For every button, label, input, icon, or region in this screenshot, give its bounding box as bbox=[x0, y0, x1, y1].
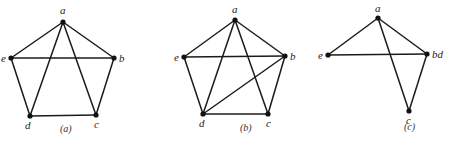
vertex-label-b: b bbox=[119, 52, 125, 64]
vertex-b bbox=[282, 53, 287, 58]
vertex-label-e: e bbox=[318, 49, 323, 61]
vertex-label-d: d bbox=[25, 119, 31, 131]
edge-a-e bbox=[184, 20, 235, 57]
vertex-label-e: e bbox=[1, 52, 6, 64]
graph-caption-c: (c) bbox=[404, 121, 416, 133]
graph-figure: abcde(a) abcde(b) abdce(c) bbox=[0, 0, 453, 146]
edge-a-d bbox=[30, 22, 63, 116]
vertex-label-a: a bbox=[375, 2, 381, 14]
vertex-e bbox=[8, 55, 13, 60]
graph-b: abcde(b) bbox=[174, 3, 296, 134]
edge-a-e bbox=[328, 18, 378, 55]
vertex-b bbox=[111, 55, 116, 60]
vertex-e bbox=[325, 52, 330, 57]
edge-b-c bbox=[268, 56, 285, 114]
edge-b-c bbox=[96, 58, 114, 115]
vertex-d bbox=[200, 111, 205, 116]
vertex-label-a: a bbox=[232, 3, 238, 15]
vertex-a bbox=[60, 19, 65, 24]
vertex-label-b: b bbox=[290, 50, 296, 62]
vertex-bd bbox=[424, 51, 429, 56]
vertex-a bbox=[232, 17, 237, 22]
vertex-label-e: e bbox=[174, 51, 179, 63]
vertex-c bbox=[406, 108, 411, 113]
vertex-label-bd: bd bbox=[432, 48, 444, 60]
edge-a-c bbox=[235, 20, 268, 114]
edge-a-bd bbox=[378, 18, 427, 54]
edge-d-b bbox=[203, 56, 285, 114]
edge-a-c bbox=[378, 18, 409, 111]
edge-e-d bbox=[184, 57, 203, 114]
vertex-label-a: a bbox=[60, 4, 66, 16]
edge-e-d bbox=[11, 58, 30, 116]
graph-c: abdce(c) bbox=[318, 2, 444, 133]
edge-a-c bbox=[63, 22, 96, 115]
vertex-label-c: c bbox=[266, 117, 271, 129]
graph-caption-a: (a) bbox=[60, 123, 72, 135]
vertex-d bbox=[27, 113, 32, 118]
edge-a-d bbox=[203, 20, 235, 114]
vertex-a bbox=[375, 15, 380, 20]
edge-a-e bbox=[11, 22, 63, 58]
vertex-label-d: d bbox=[199, 117, 205, 129]
vertex-c bbox=[265, 111, 270, 116]
graph-caption-b: (b) bbox=[240, 122, 252, 134]
vertex-c bbox=[93, 112, 98, 117]
vertex-e bbox=[181, 54, 186, 59]
edge-bd-c bbox=[409, 54, 427, 111]
edge-e-b bbox=[184, 56, 285, 57]
graph-a: abcde(a) bbox=[1, 4, 125, 135]
edge-e-bd bbox=[328, 54, 427, 55]
edge-d-c bbox=[30, 115, 96, 116]
edge-a-b bbox=[63, 22, 114, 58]
vertex-label-c: c bbox=[94, 118, 99, 130]
edge-a-b bbox=[235, 20, 285, 56]
